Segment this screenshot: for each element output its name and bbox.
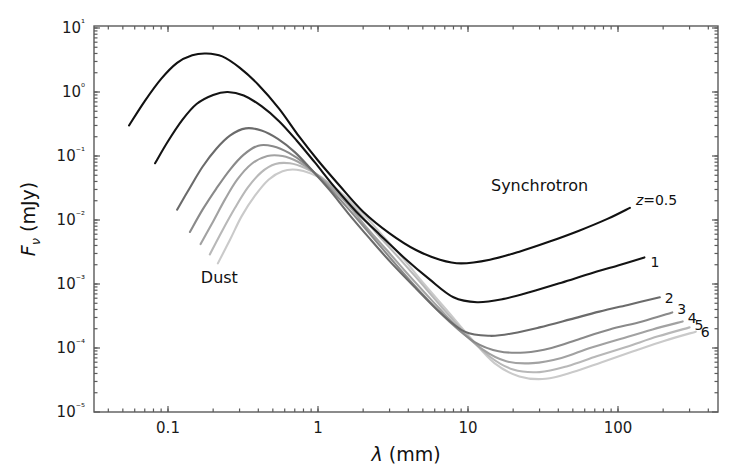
annotation-dust: Dust: [201, 267, 238, 286]
plot-canvas: [0, 0, 742, 475]
y-tick-label: 10⁻¹: [57, 147, 85, 165]
y-tick-label: 10¹: [62, 19, 85, 37]
curve-label-z2: 2: [665, 290, 674, 306]
x-axis-major-ticks: [168, 26, 618, 412]
sed-figure: 0.1110100 10⁻⁵10⁻⁴10⁻³10⁻²10⁻¹10⁰10¹ z=0…: [0, 0, 742, 475]
sed-curve-z2: [177, 128, 660, 336]
annotation-synchrotron: Synchrotron: [491, 176, 588, 195]
y-tick-label: 10⁰: [62, 83, 85, 101]
y-tick-label: 10⁻⁵: [57, 403, 85, 421]
sed-curves-group: [129, 53, 696, 379]
x-axis-title: λ (mm): [371, 443, 440, 465]
x-tick-label: 10: [458, 419, 477, 437]
curve-label-z1: 1: [650, 254, 659, 270]
y-tick-label: 10⁻⁴: [57, 339, 85, 357]
y-tick-label: 10⁻²: [57, 211, 85, 229]
x-tick-label: 0.1: [156, 419, 180, 437]
y-tick-label: 10⁻³: [57, 275, 85, 293]
x-tick-label: 100: [604, 419, 633, 437]
curve-label-z3: 3: [677, 301, 686, 317]
x-tick-label: 1: [313, 419, 323, 437]
y-axis-title: Fν (mJy): [17, 182, 39, 256]
sed-curve-z5: [210, 163, 690, 373]
curve-label-z05: z=0.5: [636, 192, 677, 208]
curve-label-z6: 6: [701, 324, 710, 340]
sed-curve-z3: [190, 145, 672, 353]
